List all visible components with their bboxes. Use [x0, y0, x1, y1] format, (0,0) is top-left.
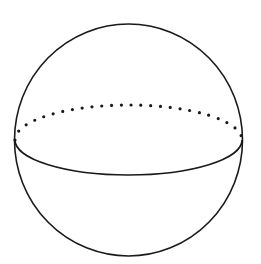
background [0, 0, 261, 264]
sphere-diagram [0, 0, 261, 264]
